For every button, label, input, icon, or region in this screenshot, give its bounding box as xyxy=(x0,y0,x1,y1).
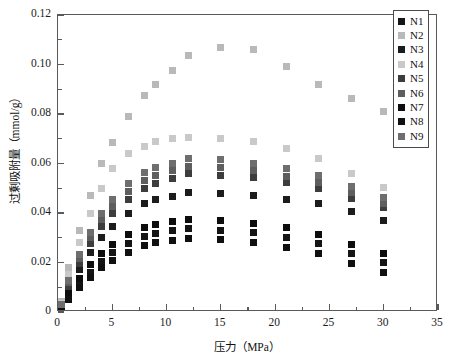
data-point xyxy=(315,155,322,162)
x-tick-label: 25 xyxy=(308,317,348,328)
data-point xyxy=(185,134,192,141)
data-point xyxy=(87,229,94,236)
data-point xyxy=(315,172,322,179)
data-point xyxy=(217,236,224,243)
data-point xyxy=(109,241,116,248)
data-point xyxy=(87,192,94,199)
data-point xyxy=(152,81,159,88)
legend-swatch-icon xyxy=(398,61,405,68)
legend-swatch-icon xyxy=(398,90,405,97)
data-point xyxy=(217,190,224,197)
legend-item-n1[interactable]: N1 xyxy=(398,14,423,28)
data-point xyxy=(185,52,192,59)
data-point xyxy=(250,229,257,236)
data-point xyxy=(217,135,224,142)
data-point xyxy=(65,264,72,271)
y-tick-major xyxy=(58,311,64,312)
data-point xyxy=(185,225,192,232)
data-point xyxy=(315,81,322,88)
legend-item-n6[interactable]: N6 xyxy=(398,86,423,100)
data-point xyxy=(283,63,290,70)
data-point xyxy=(185,216,192,223)
data-point xyxy=(125,188,132,195)
data-point xyxy=(348,241,355,248)
data-point xyxy=(169,227,176,234)
data-point xyxy=(152,230,159,237)
data-point xyxy=(152,221,159,228)
legend-swatch-icon xyxy=(398,133,405,140)
plot-area xyxy=(57,14,437,311)
data-point xyxy=(152,196,159,203)
data-point xyxy=(109,223,116,230)
data-point xyxy=(141,177,148,184)
data-point xyxy=(380,108,387,115)
legend-label: N8 xyxy=(410,116,423,127)
y-tick-label: 0.02 xyxy=(3,256,51,267)
y-axis-title: 过剩吸附量（mmol/g） xyxy=(6,78,22,218)
data-point xyxy=(283,179,290,186)
data-point xyxy=(125,249,132,256)
data-point xyxy=(315,231,322,238)
data-point xyxy=(169,160,176,167)
data-point xyxy=(380,250,387,257)
legend-item-n8[interactable]: N8 xyxy=(398,115,423,129)
data-point xyxy=(141,242,148,249)
data-point xyxy=(87,261,94,268)
data-point xyxy=(152,180,159,187)
data-point xyxy=(98,234,105,241)
x-tick-label: 15 xyxy=(200,317,240,328)
y-tick-label: 0 xyxy=(3,305,51,316)
legend-label: N6 xyxy=(410,88,423,99)
x-tick-label: 0 xyxy=(37,317,77,328)
data-point xyxy=(348,208,355,215)
data-point xyxy=(87,240,94,247)
x-tick-label: 10 xyxy=(146,317,186,328)
data-point xyxy=(87,210,94,217)
legend-item-n5[interactable]: N5 xyxy=(398,72,423,86)
data-point xyxy=(141,185,148,192)
data-point xyxy=(76,227,83,234)
data-point xyxy=(152,138,159,145)
data-point xyxy=(125,196,132,203)
data-point xyxy=(141,224,148,231)
data-point xyxy=(76,239,83,246)
legend-item-n2[interactable]: N2 xyxy=(398,28,423,42)
data-point xyxy=(125,113,132,120)
data-point xyxy=(217,156,224,163)
data-point xyxy=(315,240,322,247)
legend-item-n9[interactable]: N9 xyxy=(398,129,423,143)
data-point xyxy=(380,259,387,266)
legend: N1N2N3N4N5N6N7N8N9 xyxy=(393,10,429,148)
legend-item-n7[interactable]: N7 xyxy=(398,100,423,114)
data-point xyxy=(283,244,290,251)
data-point xyxy=(217,172,224,179)
x-tick-major xyxy=(437,304,438,310)
data-point xyxy=(169,67,176,74)
data-point xyxy=(348,170,355,177)
data-point xyxy=(283,224,290,231)
data-point xyxy=(98,210,105,217)
legend-swatch-icon xyxy=(398,32,405,39)
data-point xyxy=(76,275,83,282)
data-point xyxy=(98,185,105,192)
data-point xyxy=(98,223,105,230)
data-point xyxy=(348,183,355,190)
data-point xyxy=(250,174,257,181)
data-point xyxy=(152,164,159,171)
data-point xyxy=(98,264,105,271)
legend-item-n4[interactable]: N4 xyxy=(398,57,423,71)
data-point xyxy=(283,165,290,172)
data-point xyxy=(125,231,132,238)
data-point xyxy=(348,260,355,267)
data-point xyxy=(125,240,132,247)
x-tick-label: 20 xyxy=(254,317,294,328)
data-point xyxy=(109,196,116,203)
legend-label: N1 xyxy=(410,16,423,27)
data-point xyxy=(109,203,116,210)
data-point xyxy=(169,135,176,142)
data-point xyxy=(250,220,257,227)
data-point xyxy=(169,218,176,225)
data-point xyxy=(152,239,159,246)
legend-item-n3[interactable]: N3 xyxy=(398,43,423,57)
data-point xyxy=(169,175,176,182)
